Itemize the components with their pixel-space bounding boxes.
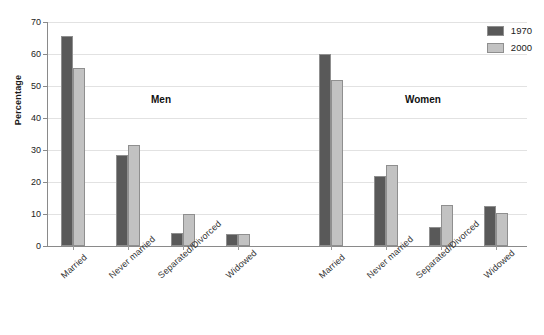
legend-label-1970: 1970 (511, 26, 532, 36)
y-tick-label-40: 40 (31, 113, 41, 123)
x-tick-women-married (331, 246, 332, 250)
bar-men-never-married-1970[interactable] (116, 155, 128, 246)
legend-item-1970[interactable]: 1970 (487, 26, 532, 36)
x-tick-men-widowed (238, 246, 239, 250)
bars-men-never-married (116, 22, 140, 246)
bar-men-never-married-2000[interactable] (128, 145, 140, 246)
y-tick-label-0: 0 (36, 241, 41, 251)
bar-women-married-1970[interactable] (319, 54, 331, 246)
group-men (47, 22, 277, 246)
x-tick-men-married (73, 246, 74, 250)
x-tick-men-never-married (128, 246, 129, 250)
x-label-men-widowed: Widowed (224, 248, 259, 281)
bars-women-separated-divorced (429, 22, 453, 246)
y-tick-label-60: 60 (31, 49, 41, 59)
bar-women-never-married-2000[interactable] (386, 165, 398, 246)
grouped-bar-chart: Percentage 70 60 50 40 30 (0, 0, 544, 335)
legend-swatch-1970 (487, 26, 504, 36)
bar-men-married-1970[interactable] (61, 36, 73, 246)
bar-men-married-2000[interactable] (73, 68, 85, 246)
x-label-women-widowed: Widowed (482, 248, 517, 281)
y-tick-label-70: 70 (31, 17, 41, 27)
x-label-women-married: Married (317, 252, 347, 280)
bars-women-never-married (374, 22, 398, 246)
y-tick-label-10: 10 (31, 209, 41, 219)
bars-men-widowed (226, 22, 250, 246)
legend: 1970 2000 (487, 26, 532, 60)
y-tick-label-30: 30 (31, 145, 41, 155)
bar-women-widowed-1970[interactable] (484, 206, 496, 246)
y-tick-label-50: 50 (31, 81, 41, 91)
bars-men-separated-divorced (171, 22, 195, 246)
y-axis-title: Percentage (13, 60, 23, 140)
bar-men-widowed-2000[interactable] (238, 234, 250, 246)
bar-women-never-married-1970[interactable] (374, 176, 386, 246)
y-tick-mark-0 (43, 246, 48, 247)
y-tick-0: 0 (47, 246, 48, 247)
group-title-women: Women (405, 94, 441, 105)
bar-women-widowed-2000[interactable] (496, 213, 508, 246)
bar-men-widowed-1970[interactable] (226, 234, 238, 246)
bar-men-separated-divorced-1970[interactable] (171, 233, 183, 246)
bars-men-married (61, 22, 85, 246)
group-title-men: Men (151, 94, 171, 105)
y-tick-label-20: 20 (31, 177, 41, 187)
legend-label-2000: 2000 (511, 43, 532, 53)
bar-women-married-2000[interactable] (331, 80, 343, 246)
x-tick-women-never-married (386, 246, 387, 250)
plot-area: 70 60 50 40 30 20 10 0 (47, 22, 527, 246)
legend-item-2000[interactable]: 2000 (487, 43, 532, 53)
x-label-men-married: Married (59, 252, 89, 280)
bars-women-married (319, 22, 343, 246)
legend-swatch-2000 (487, 43, 504, 53)
bar-women-separated-divorced-1970[interactable] (429, 227, 441, 246)
x-tick-women-widowed (496, 246, 497, 250)
